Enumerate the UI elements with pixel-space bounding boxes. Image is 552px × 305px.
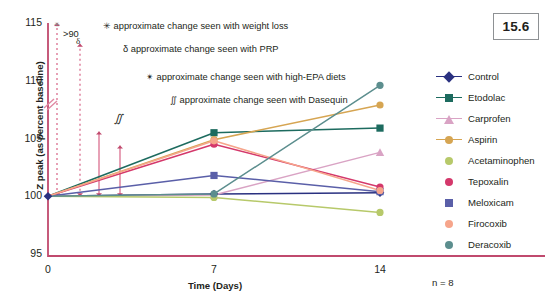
legend-marker-tri-icon [444, 115, 454, 124]
annotation-symbol-prp: δ [76, 36, 80, 46]
y-tick-label: 115 [12, 16, 42, 28]
series-marker-etodolac [210, 129, 217, 136]
legend-swatch-carprofen [436, 113, 462, 125]
annotation-symbol: ✳ [103, 21, 111, 31]
legend-marker-circle-icon [445, 220, 453, 228]
series-marker-aspirin [376, 101, 383, 108]
series-marker-firocoxib [210, 137, 217, 144]
annotation-symbol: ∬ [170, 95, 177, 105]
legend-swatch-control [436, 71, 462, 83]
annotation-symbol-dasequin: ∬ [114, 112, 124, 125]
series-marker-carprofen [376, 148, 384, 156]
y-tick-label: 105 [12, 132, 42, 144]
annotation-marker-arrow-top [96, 132, 102, 135]
legend-marker-circle-icon [445, 241, 453, 249]
x-tick-label: 0 [33, 263, 63, 275]
series-marker-acetaminophen [376, 209, 383, 216]
series-line-firocoxib [48, 141, 380, 196]
legend-item-firocoxib[interactable]: Firocoxib [436, 213, 548, 234]
legend-marker-circle-icon [445, 157, 453, 165]
legend-label: Control [468, 71, 499, 82]
y-axis-label: Z peak (as percent baseline) [34, 41, 45, 211]
annotation-text: approximate change seen with PRP [128, 44, 278, 54]
annotation-note: ✳ approximate change seen with weight lo… [103, 20, 288, 31]
legend-marker-circle-icon [445, 178, 453, 186]
annotation-marker-arrow-top [117, 145, 123, 148]
legend-label: Etodolac [468, 92, 505, 103]
legend-item-carprofen[interactable]: Carprofen [436, 108, 548, 129]
legend-swatch-deracoxib [436, 239, 462, 251]
figure-container: 15.6 >90✳δ∬ Z peak (as percent baseline)… [0, 0, 552, 305]
legend-item-acetaminophen[interactable]: Acetaminophen [436, 150, 548, 171]
annotation-note: ∬ approximate change seen with Dasequin [170, 94, 348, 105]
legend-item-control[interactable]: Control [436, 66, 548, 87]
legend-label: Carprofen [468, 113, 511, 124]
series-marker-meloxicam [210, 172, 217, 179]
legend-swatch-etodolac [436, 92, 462, 104]
legend-swatch-firocoxib [436, 218, 462, 230]
legend-marker-circle-icon [445, 136, 453, 144]
annotation-text: approximate change seen with high-EPA di… [154, 72, 346, 82]
legend-label: Aspirin [468, 134, 497, 145]
annotation-symbol: ✴ [146, 72, 154, 82]
legend-item-meloxicam[interactable]: Meloxicam [436, 192, 548, 213]
legend-item-etodolac[interactable]: Etodolac [436, 87, 548, 108]
series-marker-deracoxib [376, 82, 383, 89]
series-line-tepoxalin [48, 144, 380, 196]
legend-swatch-tepoxalin [436, 176, 462, 188]
chart-legend: ControlEtodolacCarprofenAspirinAcetamino… [436, 66, 548, 255]
legend-label: Deracoxib [468, 239, 511, 250]
series-marker-etodolac [376, 125, 383, 132]
series-marker-firocoxib [376, 187, 383, 194]
legend-label: Acetaminophen [468, 155, 535, 166]
legend-swatch-aspirin [436, 134, 462, 146]
series-marker-control [44, 192, 53, 201]
y-tick-label: 110 [12, 74, 42, 86]
sample-size-label: n = 8 [432, 277, 454, 288]
legend-swatch-acetaminophen [436, 155, 462, 167]
legend-item-aspirin[interactable]: Aspirin [436, 129, 548, 150]
x-axis-label: Time (Days) [120, 280, 310, 291]
x-tick-label: 7 [199, 263, 229, 275]
legend-marker-diamond-icon [443, 71, 454, 82]
legend-label: Meloxicam [468, 197, 514, 208]
annotation-text: approximate change seen with Dasequin [177, 95, 348, 105]
legend-marker-square-icon [445, 94, 453, 102]
y-tick-label: 100 [12, 189, 42, 201]
y-axis-break-icon [44, 99, 57, 110]
annotation-symbol-weightloss: ✳ [54, 21, 60, 28]
x-tick-label: 14 [365, 263, 395, 275]
legend-item-tepoxalin[interactable]: Tepoxalin [436, 171, 548, 192]
series-marker-deracoxib [210, 190, 217, 197]
annotation-note: ✴ approximate change seen with high-EPA … [146, 71, 346, 82]
legend-item-deracoxib[interactable]: Deracoxib [436, 234, 548, 255]
legend-swatch-meloxicam [436, 197, 462, 209]
y-tick-label: 95 [12, 247, 42, 259]
annotation-text: approximate change seen with weight loss [111, 21, 288, 31]
legend-label: Firocoxib [468, 218, 507, 229]
legend-label: Tepoxalin [468, 176, 509, 187]
legend-marker-square-icon [445, 199, 453, 207]
annotation-note: δ approximate change seen with PRP [123, 44, 279, 54]
